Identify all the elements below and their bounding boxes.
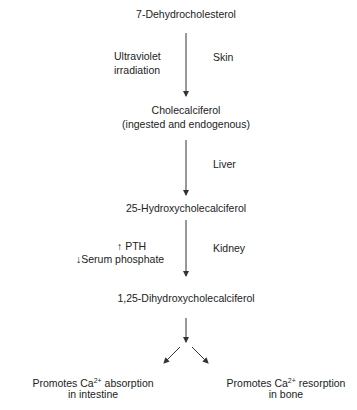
node-1-25-dihydroxycholecalciferol: 1,25-Dihydroxycholecalciferol bbox=[76, 292, 296, 305]
label-skin: Skin bbox=[213, 51, 233, 64]
node-cholecalciferol-note: (ingested and endogenous) bbox=[76, 118, 296, 131]
label-irradiation: irradiation bbox=[114, 64, 160, 77]
label-pth: ↑ PTH bbox=[117, 240, 146, 253]
arrow-right-branch bbox=[192, 347, 208, 363]
label-serum-phosphate: ↓Serum phosphate bbox=[76, 253, 164, 266]
arrow-left-branch bbox=[164, 347, 180, 363]
outcome-intestine-site: in intestine bbox=[18, 388, 168, 401]
node-cholecalciferol: Cholecalciferol bbox=[86, 104, 286, 117]
label-liver: Liver bbox=[213, 158, 236, 171]
label-ultraviolet: Ultraviolet bbox=[114, 50, 161, 63]
node-7-dehydrocholesterol: 7-Dehydrocholesterol bbox=[86, 8, 286, 21]
node-25-hydroxycholecalciferol: 25-Hydroxycholecalciferol bbox=[76, 202, 296, 215]
label-kidney: Kidney bbox=[213, 242, 245, 255]
outcome-bone-site: in bone bbox=[218, 388, 354, 401]
